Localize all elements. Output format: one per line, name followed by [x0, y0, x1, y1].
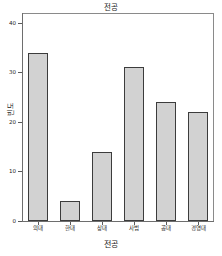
bar-chart: 전공 빈도 010203040 의대한대상대사범공대경영대 전공: [0, 0, 222, 256]
x-tick-label: 사범: [118, 225, 150, 232]
bar: [92, 152, 112, 221]
x-tick-label: 공대: [150, 225, 182, 232]
bar: [156, 102, 176, 221]
y-tick-label: 20: [0, 119, 16, 125]
x-tick-label: 상대: [86, 225, 118, 232]
y-tick-mark: [18, 171, 22, 172]
x-axis-title: 전공: [0, 238, 222, 249]
chart-title: 전공: [0, 1, 222, 12]
y-tick-label: 10: [0, 168, 16, 174]
x-tick-label: 한대: [54, 225, 86, 232]
x-axis-line: [22, 221, 214, 222]
y-tick-mark: [18, 23, 22, 24]
bar: [188, 112, 208, 221]
x-tick-label: 의대: [22, 225, 54, 232]
y-tick-label: 40: [0, 20, 16, 26]
y-tick-label: 0: [0, 218, 16, 224]
y-tick-mark: [18, 72, 22, 73]
bar: [28, 53, 48, 221]
plot-area: [22, 13, 214, 222]
bar: [124, 67, 144, 221]
x-tick-label: 경영대: [182, 225, 214, 232]
y-tick-mark: [18, 221, 22, 222]
y-tick-label: 30: [0, 69, 16, 75]
bar: [60, 201, 80, 221]
y-tick-mark: [18, 122, 22, 123]
y-axis-line: [22, 13, 23, 222]
